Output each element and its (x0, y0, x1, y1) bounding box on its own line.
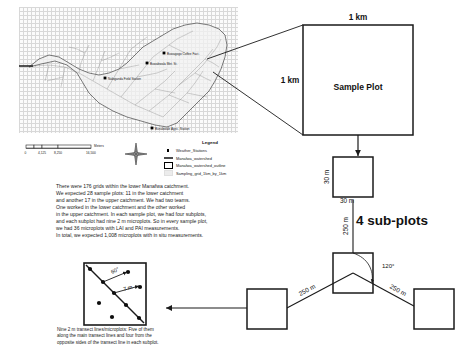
legend-item-label: Manafwa_watershed_outline (176, 163, 226, 168)
grid-swatch-icon (160, 170, 176, 177)
body-text-line: we had 36 microplots with LAI and PAI me… (56, 225, 271, 232)
microplot-branch-lines (103, 272, 139, 293)
outline-box-icon (160, 162, 176, 169)
spacing-left-label: 250 m (297, 283, 316, 298)
spacing-center-label: 250 m (342, 217, 349, 235)
station-label: Buwabwala Met. St. (150, 62, 177, 66)
spacing-right-label: 250 m (389, 283, 408, 298)
body-text-line: and another 17 in the upper catchment. W… (56, 197, 271, 204)
station-label: Buwagogo Coffee Fact. (167, 52, 199, 56)
station-label: Nabiganda Field Station (108, 77, 141, 81)
body-text-line: In total, we expected 1,008 microplots w… (56, 232, 271, 239)
sub-plots-heading: 4 sub-plots (356, 213, 428, 228)
sample-plot-square (303, 25, 413, 135)
legend-item-label: Sampling_grid_1km_by_1km (176, 171, 226, 176)
watershed-map-panel: Buwagogo Coffee Fact. Buwabwala Met. St.… (19, 7, 238, 133)
microplot-length-label: 7 m (123, 284, 134, 292)
subplot-top-label: 30 m (340, 197, 354, 204)
microplot-dots (88, 267, 142, 320)
microplot-detail-panel: 60° 7 m (84, 263, 146, 325)
body-text-line: in the upper catchment. In each sample p… (56, 211, 271, 218)
scale-tick-1: 4,125 (38, 151, 46, 155)
methodology-description: There were 176 grids within the lower Ma… (56, 183, 271, 239)
subplot-side-label: 30 m (323, 170, 330, 184)
sample-plot-height-label: 1 km (281, 76, 300, 85)
scale-tick-0: 0 (25, 151, 27, 155)
spacing-left-line (268, 273, 353, 318)
microplot-angle-label: 60° (110, 266, 120, 275)
scale-tick-3: 16,500 (86, 151, 96, 155)
legend-item-label: Weather_Stations (176, 148, 207, 153)
subplot-square-bottom-left (247, 289, 287, 329)
watershed-map-svg: Buwagogo Coffee Fact. Buwabwala Met. St.… (19, 7, 238, 133)
body-text-line: One worked in the lower catchment and th… (56, 204, 271, 211)
legend-title: Legend (160, 140, 260, 145)
legend-item-weather-stations: Weather_Stations (160, 147, 260, 154)
legend-item-watershed-outline: Manafwa_watershed_outline (160, 162, 260, 169)
map-scale-bar: 0 4,125 8,250 16,500 Meters (24, 140, 119, 162)
subplot-square-top (333, 157, 373, 197)
scale-tick-2: 8,250 (54, 151, 62, 155)
spacing-right-line (353, 273, 436, 318)
legend-item-watershed: Manafwa_watershed (160, 155, 260, 162)
scale-units-label: Meters (94, 144, 104, 148)
microplot-caption: Nine 2 m transect lines/microplots: Five… (57, 327, 262, 346)
subplot-square-bottom-right (414, 289, 454, 329)
angle-label-120: 120° (382, 263, 395, 269)
point-marker-icon (160, 149, 176, 152)
map-legend: Legend Weather_Stations Manafwa_watershe… (160, 140, 260, 177)
station-label: Bunabwale Agric. Station (155, 127, 190, 131)
legend-item-label: Manafwa_watershed (176, 156, 212, 161)
line-symbol-icon (160, 157, 176, 158)
microplot-square (84, 263, 146, 325)
body-text-line: There were 176 grids within the lower Ma… (56, 183, 271, 190)
angle-arc-120 (353, 253, 372, 283)
watershed-outline (29, 23, 227, 127)
caption-line: opposite sides of the transect line in e… (57, 340, 262, 346)
body-text-line: We expected 28 sample plots: 11 in the l… (56, 190, 271, 197)
main-transect-line (86, 265, 144, 323)
legend-item-sampling-grid: Sampling_grid_1km_by_1km (160, 170, 260, 177)
compass-rose-icon (124, 142, 148, 166)
subplot-square-center (333, 253, 373, 293)
sample-plot-label: Sample Plot (333, 82, 382, 92)
sample-plot-width-label: 1 km (349, 13, 368, 22)
body-text-line: and each subplot had nine 2 m microplots… (56, 218, 271, 225)
